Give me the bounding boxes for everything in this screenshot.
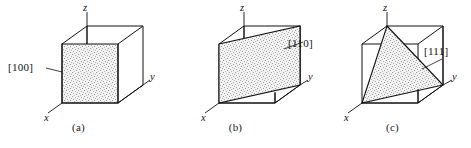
cube-left-top-diagonal <box>62 26 87 44</box>
y-axis-line <box>443 80 452 85</box>
x-axis-line <box>48 103 62 113</box>
index-label-110: [110] <box>288 37 313 49</box>
y-axis-line <box>143 80 150 85</box>
cube-bottom-right-diagonal <box>118 85 143 103</box>
panel-b-110: z y x [110] (b) <box>157 0 314 148</box>
axis-label-y: y <box>150 71 155 82</box>
index-label-111: [111] <box>424 45 449 57</box>
crystallographic-planes-figure: z y x [100] (a) <box>0 0 471 148</box>
axis-label-z: z <box>240 2 244 13</box>
axis-label-y: y <box>308 71 313 82</box>
caption-c: (c) <box>314 121 471 133</box>
leader-line-111 <box>422 59 442 69</box>
panel-a-100: z y x [100] (a) <box>0 0 157 148</box>
x-axis-line <box>348 103 362 113</box>
axis-label-z: z <box>383 2 387 13</box>
x-axis-line <box>205 103 219 113</box>
index-label-100: [100] <box>8 61 33 73</box>
cube-right-top-diagonal <box>418 26 443 44</box>
caption-b: (b) <box>157 121 314 133</box>
caption-a: (a) <box>0 121 157 133</box>
cube-right-top-diagonal <box>118 26 143 44</box>
axis-label-y: y <box>452 71 457 82</box>
shaded-plane-100 <box>62 44 118 103</box>
panel-c-111: z y x [111] (c) <box>314 0 471 148</box>
axis-label-z: z <box>83 2 87 13</box>
y-axis-line <box>300 80 308 85</box>
leader-line-100 <box>46 68 62 72</box>
